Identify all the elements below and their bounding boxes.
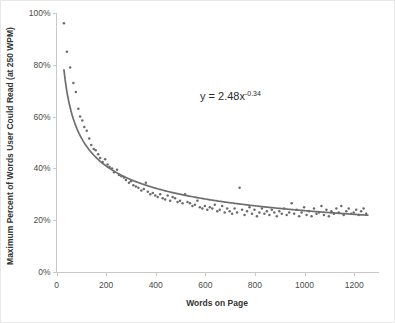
y-axis-tick-labels: 0%20%40%60%80%100% — [29, 8, 51, 277]
data-point — [315, 212, 318, 215]
y-tick-label: 40% — [33, 163, 50, 173]
scatter-chart: 0%20%40%60%80%100% 020040060080010001200… — [1, 1, 395, 323]
data-point — [362, 207, 365, 210]
data-point — [273, 211, 276, 214]
data-point — [256, 215, 259, 218]
data-point — [313, 207, 316, 210]
data-point — [204, 205, 207, 208]
data-point — [211, 207, 214, 210]
data-point — [355, 209, 358, 212]
x-axis: 020040060080010001200 — [54, 272, 379, 290]
data-point — [209, 206, 212, 209]
data-point — [288, 211, 291, 214]
data-point — [201, 207, 204, 210]
data-point — [104, 158, 107, 161]
data-point — [258, 211, 261, 214]
data-point — [99, 157, 102, 160]
data-point — [233, 207, 236, 210]
data-point — [132, 184, 135, 187]
data-point — [94, 149, 97, 152]
chart-figure: 0%20%40%60%80%100% 020040060080010001200… — [0, 0, 395, 323]
x-tick-label: 200 — [99, 280, 113, 290]
data-point — [63, 22, 66, 25]
data-point — [223, 211, 226, 214]
data-point — [97, 153, 100, 156]
data-point — [125, 179, 128, 182]
data-point — [145, 181, 148, 184]
data-point — [241, 209, 244, 212]
x-tick-label: 800 — [248, 280, 262, 290]
data-point — [83, 126, 86, 128]
data-point — [159, 193, 162, 196]
data-point — [218, 209, 221, 212]
data-point — [271, 209, 274, 212]
data-point — [152, 192, 155, 195]
data-point — [276, 215, 279, 218]
data-point — [248, 206, 251, 209]
data-point — [169, 200, 172, 203]
data-point — [345, 210, 348, 213]
data-point — [140, 189, 143, 192]
data-point — [181, 202, 184, 205]
data-point — [116, 168, 119, 171]
data-point — [137, 187, 140, 190]
data-point — [135, 185, 138, 188]
y-tick-label: 80% — [33, 60, 50, 70]
data-point — [243, 214, 246, 217]
data-point — [147, 190, 150, 193]
data-point — [246, 210, 249, 213]
data-point — [285, 214, 288, 217]
data-point — [263, 212, 266, 215]
data-point — [69, 66, 72, 69]
x-tick-label: 400 — [149, 280, 163, 290]
data-point — [75, 91, 78, 94]
data-point — [347, 207, 350, 210]
data-points-group — [63, 22, 368, 217]
data-point — [352, 211, 355, 214]
data-point — [156, 196, 159, 199]
data-point — [303, 206, 306, 209]
data-point — [221, 205, 224, 208]
x-tick-label: 0 — [54, 280, 59, 290]
data-point — [88, 137, 91, 140]
y-axis: 0%20%40%60%80%100% — [29, 8, 57, 277]
trendline-equation-annotation: y = 2.48x-0.34 — [200, 90, 261, 102]
data-point — [72, 82, 75, 85]
data-point — [238, 187, 241, 190]
data-point — [298, 215, 301, 218]
x-tick-label: 1000 — [295, 280, 314, 290]
data-point — [161, 197, 164, 200]
data-point — [196, 200, 199, 203]
data-point — [236, 211, 239, 214]
data-point — [305, 214, 308, 217]
data-point — [191, 205, 194, 208]
x-axis-tick-labels: 020040060080010001200 — [54, 280, 364, 290]
data-point — [77, 108, 80, 111]
equation-exponent: -0.34 — [245, 90, 261, 97]
x-tick-label: 1200 — [345, 280, 364, 290]
data-point — [206, 209, 209, 212]
data-point — [143, 188, 146, 191]
data-point — [300, 211, 303, 214]
data-point — [199, 206, 202, 209]
x-axis-title: Words on Page — [186, 298, 248, 308]
x-tick-label: 600 — [198, 280, 212, 290]
data-point — [228, 210, 231, 213]
data-point — [251, 212, 254, 215]
y-tick-label: 60% — [33, 112, 50, 122]
data-point — [323, 214, 326, 217]
data-point — [360, 210, 363, 213]
data-point — [335, 207, 338, 210]
data-point — [66, 51, 69, 54]
y-axis-title: Maximum Percent of Words User Could Read… — [5, 27, 15, 265]
data-point — [179, 200, 182, 203]
data-point — [216, 210, 219, 213]
y-axis-ticks — [53, 14, 57, 273]
data-point — [194, 203, 197, 206]
data-point — [164, 198, 167, 201]
data-point — [340, 205, 343, 208]
data-point — [261, 207, 264, 210]
y-tick-label: 0% — [38, 267, 51, 277]
data-point — [293, 212, 296, 215]
data-point — [174, 197, 177, 200]
